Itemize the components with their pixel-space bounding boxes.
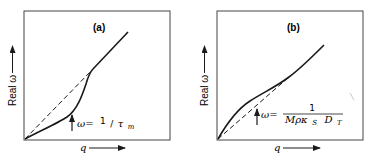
figure: (a) ω= 1 / τ m Real ω q (0, 0, 372, 160)
panel-a-x-axis-label: q (80, 142, 86, 153)
panel-b-x-axis-label: q (274, 142, 280, 153)
panel-b-y-axis-label-group: Real ω (199, 46, 210, 106)
scan-artifact (350, 93, 354, 100)
panel-b-annotation-lhs: ω= (261, 109, 278, 120)
panel-a-y-axis-label-group: Real ω (7, 46, 18, 106)
figure-canvas: (a) ω= 1 / τ m Real ω q (0, 0, 372, 160)
panel-b: (b) ω= 1 Mρκ S D T Real ω q (199, 11, 363, 153)
panel-a-label: (a) (93, 22, 105, 33)
panel-a: (a) ω= 1 / τ m Real ω q (7, 11, 170, 153)
panel-b-dashed-asymptote (218, 77, 289, 139)
panel-b-y-axis-label: Real ω (199, 75, 210, 106)
panel-a-y-axis-label: Real ω (7, 75, 18, 106)
panel-b-label: (b) (287, 22, 300, 33)
panel-a-annotation: ω= 1 / τ m (77, 110, 135, 131)
